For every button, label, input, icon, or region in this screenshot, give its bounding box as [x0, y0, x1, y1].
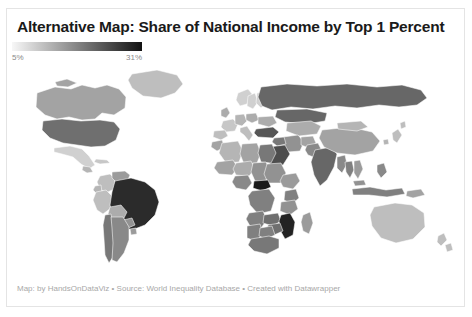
map-region-malaysia[interactable] — [353, 180, 366, 186]
map-region-dr-congo[interactable] — [248, 189, 275, 214]
map-region-south-africa[interactable] — [248, 236, 279, 254]
map-region-spain[interactable] — [213, 130, 228, 140]
map-region-philippines[interactable] — [377, 163, 387, 178]
map-region-poland[interactable] — [246, 113, 259, 123]
map-region-iraq[interactable] — [272, 137, 286, 146]
map-region-turkey[interactable] — [254, 127, 279, 138]
chart-container: Alternative Map: Share of National Incom… — [6, 8, 465, 307]
map-region-germany[interactable] — [235, 114, 247, 126]
map-region-vietnam[interactable] — [354, 160, 363, 179]
map-region-indonesia[interactable] — [352, 187, 405, 197]
legend-max-label: 31% — [126, 53, 142, 63]
map-region-united-states[interactable] — [42, 119, 120, 147]
map-region-cuba[interactable] — [94, 159, 110, 164]
map-region-papua-new-guinea[interactable] — [406, 189, 425, 198]
map-region-united-kingdom[interactable] — [221, 107, 230, 118]
map-region-mexico[interactable] — [54, 146, 95, 169]
page-title: Alternative Map: Share of National Incom… — [17, 17, 457, 36]
map-region-canada[interactable] — [36, 79, 126, 120]
map-region-australia[interactable] — [370, 203, 425, 243]
credit-line: Map: by HandsOnDataViz • Source: World I… — [17, 283, 340, 294]
map-region-argentina[interactable] — [111, 217, 129, 262]
map-country-layer — [36, 70, 453, 263]
map-region-south-korea[interactable] — [383, 139, 389, 145]
legend-min-label: 5% — [12, 53, 24, 63]
map-region-russia[interactable] — [258, 84, 427, 124]
legend-tick-labels: 5% 31% — [12, 53, 142, 65]
map-region-thailand[interactable] — [345, 161, 354, 178]
map-region-india[interactable] — [311, 147, 337, 186]
map-region-new-zealand[interactable] — [437, 233, 453, 252]
map-region-uruguay[interactable] — [130, 228, 137, 235]
map-svg — [7, 67, 464, 275]
color-legend: 5% 31% — [12, 42, 152, 66]
map-region-tanzania[interactable] — [280, 200, 298, 215]
map-region-greenland[interactable] — [128, 70, 183, 98]
map-region-nigeria[interactable] — [232, 175, 252, 190]
legend-gradient-bar — [12, 42, 142, 51]
map-region-kazakhstan[interactable] — [286, 121, 321, 136]
map-region-italy[interactable] — [240, 126, 253, 141]
map-region-madagascar[interactable] — [301, 212, 313, 234]
world-choropleth-map[interactable] — [7, 67, 464, 275]
map-region-ukraine[interactable] — [258, 116, 277, 127]
map-region-ethiopia[interactable] — [280, 173, 300, 189]
map-region-algeria[interactable] — [219, 141, 243, 163]
map-region-japan[interactable] — [392, 121, 406, 143]
map-region-mongolia[interactable] — [337, 121, 368, 131]
